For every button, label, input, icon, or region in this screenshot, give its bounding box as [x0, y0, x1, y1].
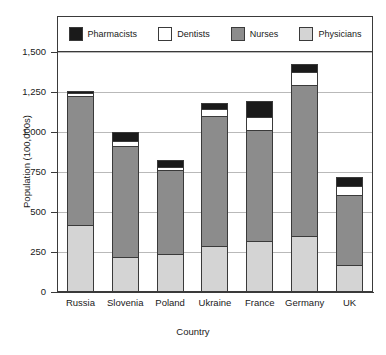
y-tick-label-500: 500	[30, 207, 46, 217]
bar-segment-poland-physicians	[157, 255, 184, 292]
y-tick-1250	[51, 92, 58, 93]
bar-segment-ukraine-dentists	[201, 110, 228, 117]
bar-segment-uk-nurses	[336, 196, 363, 266]
bar-segment-france-nurses	[246, 131, 273, 241]
bar-segment-france-pharmacists	[246, 101, 273, 118]
legend-swatch-pharmacists	[69, 27, 83, 41]
legend-label-nurses: Nurses	[250, 29, 279, 39]
x-axis-line	[57, 292, 374, 293]
y-tick-0	[51, 292, 58, 293]
x-tick-label-russia: Russia	[58, 297, 102, 308]
legend-item-physicians: Physicians	[299, 27, 361, 41]
legend-item-pharmacists: Pharmacists	[69, 27, 138, 41]
plot-area	[58, 52, 372, 292]
y-tick-label-0: 0	[41, 287, 46, 297]
chart-legend: Pharmacists Dentists Nurses Physicians	[58, 17, 372, 52]
y-axis-title: Population (100,000s)	[21, 87, 32, 237]
bar-segment-uk-dentists	[336, 187, 363, 196]
bar-france[interactable]	[246, 101, 273, 292]
bar-russia[interactable]	[67, 91, 94, 292]
bar-segment-ukraine-physicians	[201, 247, 228, 292]
bar-segment-russia-physicians	[67, 226, 94, 292]
bar-segment-uk-physicians	[336, 266, 363, 292]
bar-segment-slovenia-physicians	[112, 258, 139, 292]
bar-ukraine[interactable]	[201, 103, 228, 292]
legend-label-physicians: Physicians	[318, 29, 361, 39]
x-tick-label-france: France	[238, 297, 282, 308]
x-tick-label-poland: Poland	[148, 297, 192, 308]
bar-group	[58, 52, 372, 292]
y-tick-label-1500: 1,500	[22, 47, 46, 57]
legend-item-nurses: Nurses	[231, 27, 279, 41]
legend-swatch-nurses	[231, 27, 245, 41]
y-tick-label-750: 750	[30, 167, 46, 177]
x-tick-label-germany: Germany	[283, 297, 327, 308]
bar-segment-poland-pharmacists	[157, 160, 184, 168]
bar-segment-france-dentists	[246, 118, 273, 132]
y-tick-label-250: 250	[30, 247, 46, 257]
y-tick-500	[51, 212, 58, 213]
x-tick-label-uk: UK	[327, 297, 371, 308]
bar-uk[interactable]	[336, 177, 363, 292]
bar-segment-germany-dentists	[291, 73, 318, 87]
bar-germany[interactable]	[291, 64, 318, 292]
y-tick-750	[51, 172, 58, 173]
bar-segment-slovenia-pharmacists	[112, 132, 139, 142]
y-tick-1500	[51, 52, 58, 53]
y-tick-1000	[51, 132, 58, 133]
legend-item-dentists: Dentists	[158, 27, 210, 41]
bar-poland[interactable]	[157, 160, 184, 292]
bar-segment-germany-nurses	[291, 86, 318, 236]
legend-swatch-dentists	[158, 27, 172, 41]
legend-label-pharmacists: Pharmacists	[88, 29, 138, 39]
bar-segment-poland-nurses	[157, 171, 184, 255]
bar-segment-germany-pharmacists	[291, 64, 318, 73]
legend-swatch-physicians	[299, 27, 313, 41]
bar-segment-germany-physicians	[291, 237, 318, 292]
bar-segment-slovenia-nurses	[112, 147, 139, 257]
legend-label-dentists: Dentists	[177, 29, 210, 39]
bar-segment-uk-pharmacists	[336, 177, 363, 187]
x-tick-label-ukraine: Ukraine	[193, 297, 237, 308]
bar-segment-russia-nurses	[67, 97, 94, 226]
x-axis-tick-labels: RussiaSloveniaPolandUkraineFranceGermany…	[58, 297, 372, 308]
x-tick-label-slovenia: Slovenia	[103, 297, 147, 308]
x-axis-title: Country	[0, 326, 386, 337]
y-tick-250	[51, 252, 58, 253]
bar-segment-ukraine-nurses	[201, 117, 228, 247]
stacked-bar-chart: Pharmacists Dentists Nurses Physicians 0…	[0, 0, 386, 355]
bar-segment-france-physicians	[246, 242, 273, 292]
bar-slovenia[interactable]	[112, 132, 139, 292]
